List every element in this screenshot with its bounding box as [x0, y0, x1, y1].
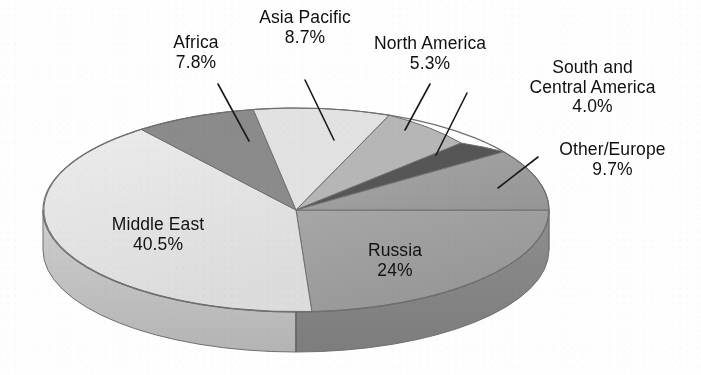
- label-north-america-name: North America: [355, 34, 505, 54]
- label-africa-percent: 7.8%: [146, 53, 246, 73]
- label-asia-pacific-percent: 8.7%: [235, 28, 375, 48]
- label-south-central-america: South and Central America 4.0%: [505, 58, 680, 117]
- label-africa-name: Africa: [146, 33, 246, 53]
- label-asia-pacific: Asia Pacific 8.7%: [235, 8, 375, 47]
- label-south-central-america-percent: 4.0%: [505, 97, 680, 117]
- label-other-europe-name: Other/Europe: [540, 140, 685, 160]
- label-middle-east: Middle East 40.5%: [83, 215, 233, 254]
- pie-chart-figure: Africa 7.8% Asia Pacific 8.7% North Amer…: [0, 0, 701, 375]
- label-middle-east-name: Middle East: [83, 215, 233, 235]
- pie-top-face: [44, 108, 549, 312]
- label-south-central-america-name-line2: Central America: [505, 78, 680, 98]
- label-north-america: North America 5.3%: [355, 34, 505, 73]
- label-other-europe: Other/Europe 9.7%: [540, 140, 685, 179]
- label-russia: Russia 24%: [340, 241, 450, 280]
- label-middle-east-percent: 40.5%: [83, 235, 233, 255]
- label-asia-pacific-name: Asia Pacific: [235, 8, 375, 28]
- label-south-central-america-name-line1: South and: [505, 58, 680, 78]
- label-other-europe-percent: 9.7%: [540, 160, 685, 180]
- label-russia-percent: 24%: [340, 261, 450, 281]
- label-north-america-percent: 5.3%: [355, 54, 505, 74]
- label-russia-name: Russia: [340, 241, 450, 261]
- label-africa: Africa 7.8%: [146, 33, 246, 72]
